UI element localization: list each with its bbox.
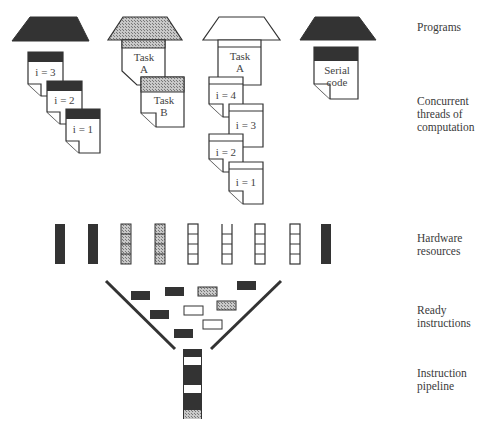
svg-text:code: code xyxy=(327,76,348,88)
hw-unit-1 xyxy=(55,224,65,264)
hw-unit-6 xyxy=(222,224,232,264)
hw-unit-4 xyxy=(155,224,165,264)
program-4-roof xyxy=(300,17,376,40)
hw-unit-9 xyxy=(321,224,331,264)
svg-text:i = 1: i = 1 xyxy=(73,123,93,135)
svg-text:A: A xyxy=(140,63,148,75)
instruction-pipeline xyxy=(183,349,202,419)
svg-text:i = 2: i = 2 xyxy=(216,146,236,158)
funnel-right-edge xyxy=(211,281,281,349)
svg-text:Task: Task xyxy=(230,50,251,62)
svg-text:i = 2: i = 2 xyxy=(54,94,74,106)
program-1-roof xyxy=(12,17,89,41)
svg-text:i = 3: i = 3 xyxy=(35,66,56,78)
hw-unit-7 xyxy=(255,224,265,264)
label-hardware-resources: Hardware resources xyxy=(417,232,462,258)
thread-p2-task-b: Task B xyxy=(141,77,184,127)
hw-unit-3 xyxy=(121,224,131,264)
thread-p1-3: i = 1 xyxy=(66,109,100,153)
ready-instructions xyxy=(131,281,256,338)
label-instruction-pipeline: Instruction pipeline xyxy=(417,367,467,393)
thread-p4-serial: Serial code xyxy=(314,47,358,99)
label-concurrent-threads: Concurrent threads of computation xyxy=(417,95,475,134)
svg-text:B: B xyxy=(160,106,167,118)
program-2-roof xyxy=(108,17,182,40)
label-ready-instructions: Ready instructions xyxy=(417,304,471,330)
svg-text:A: A xyxy=(236,62,244,74)
svg-text:i = 4: i = 4 xyxy=(216,89,237,101)
hw-unit-8 xyxy=(290,224,300,264)
svg-text:Task: Task xyxy=(134,51,155,63)
hardware-resources xyxy=(55,224,331,264)
hw-unit-2 xyxy=(88,224,98,264)
svg-text:Serial: Serial xyxy=(324,64,350,76)
label-programs: Programs xyxy=(417,21,461,34)
program-3-roof xyxy=(203,17,280,40)
svg-text:i = 3: i = 3 xyxy=(236,119,257,131)
thread-p3-i1: i = 1 xyxy=(229,162,263,204)
svg-text:Task: Task xyxy=(154,94,175,106)
svg-text:i = 1: i = 1 xyxy=(236,176,256,188)
hw-unit-5 xyxy=(188,224,198,264)
